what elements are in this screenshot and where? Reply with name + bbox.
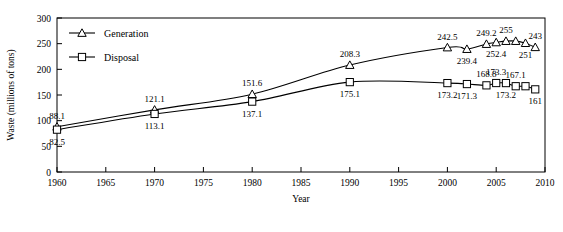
data-label-generation-1990: 208.3: [340, 49, 361, 59]
data-label-disposal-2005: 173.3: [486, 67, 507, 77]
data-point-disposal-2009: [532, 86, 539, 93]
x-tick-label-1995: 1995: [389, 178, 408, 188]
data-label-disposal-2000: 173.2: [437, 90, 457, 100]
data-label-disposal-2006: 173.2: [496, 90, 516, 100]
series-line-disposal: [57, 81, 535, 130]
data-label-disposal-2002: 171.3: [457, 91, 478, 101]
data-point-generation-2009: [531, 43, 539, 51]
data-point-disposal-1970: [151, 110, 158, 117]
data-point-disposal-1960: [53, 126, 60, 133]
y-tick-label-0: 0: [46, 168, 51, 178]
data-point-disposal-2000: [444, 79, 451, 86]
data-label-generation-2008: 251: [519, 50, 533, 60]
waste-generation-disposal-chart: 0501001502002503001960196519701975198019…: [0, 0, 563, 232]
x-tick-label-1970: 1970: [145, 178, 164, 188]
x-tick-label-1985: 1985: [292, 178, 311, 188]
chart-canvas: 0501001502002503001960196519701975198019…: [0, 0, 563, 232]
y-axis-title: Waste (millions of tons): [6, 49, 17, 140]
data-point-disposal-2006: [502, 79, 509, 86]
y-tick-label-300: 300: [37, 14, 52, 24]
data-point-disposal-1980: [249, 98, 256, 105]
x-axis-title: Year: [292, 194, 310, 204]
legend-label-generation: Generation: [104, 28, 148, 39]
data-label-generation-2006: 255: [499, 25, 513, 35]
data-point-disposal-2005: [493, 79, 500, 86]
data-point-disposal-2004: [483, 82, 490, 89]
data-point-disposal-2002: [463, 80, 470, 87]
legend-marker-disposal: [78, 53, 85, 60]
legend: GenerationDisposal: [69, 28, 148, 63]
x-tick-label-1990: 1990: [340, 178, 359, 188]
data-point-disposal-1990: [346, 79, 353, 86]
data-label-disposal-1970: 113.1: [145, 121, 165, 131]
data-label-disposal-1980: 137.1: [242, 109, 262, 119]
data-label-generation-2009: 243: [528, 31, 542, 41]
x-tick-label-1960: 1960: [48, 178, 67, 188]
data-label-disposal-2007: 167.1: [506, 70, 526, 80]
data-label-generation-2000: 242.5: [437, 32, 458, 42]
data-label-generation-1970: 121.1: [144, 94, 164, 104]
data-label-generation-2005: 252.4: [486, 49, 507, 59]
data-label-disposal-1990: 175.1: [340, 89, 360, 99]
data-label-generation-2004: 249.2: [476, 28, 496, 38]
x-tick-label-2010: 2010: [536, 178, 555, 188]
y-tick-label-200: 200: [37, 65, 52, 75]
legend-label-disposal: Disposal: [104, 52, 139, 63]
data-label-disposal-2009: 161: [528, 96, 542, 106]
y-tick-label-250: 250: [37, 39, 52, 49]
data-label-generation-2002: 239.4: [457, 56, 478, 66]
data-label-generation-1980: 151.6: [242, 78, 263, 88]
series-disposal: [53, 79, 538, 134]
x-tick-label-2005: 2005: [487, 178, 506, 188]
data-label-generation-1960: 88.1: [49, 111, 65, 121]
data-point-disposal-2008: [522, 83, 529, 90]
x-tick-label-2000: 2000: [438, 178, 457, 188]
x-tick-label-1965: 1965: [96, 178, 115, 188]
x-tick-label-1980: 1980: [243, 178, 262, 188]
data-point-disposal-2007: [512, 83, 519, 90]
y-tick-label-150: 150: [37, 91, 52, 101]
data-label-disposal-1960: 82.5: [49, 137, 65, 147]
x-tick-label-1975: 1975: [194, 178, 213, 188]
